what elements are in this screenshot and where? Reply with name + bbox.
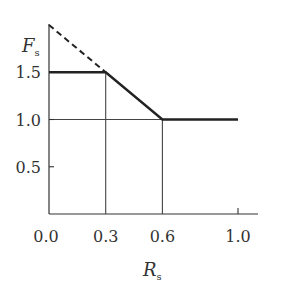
y-tick-label: 0.5 [16,158,41,177]
y-tick-label: 1.5 [16,63,41,82]
x-axis-title: Rs [142,259,162,282]
dashed-series-line [49,25,106,72]
plot-area: 0.51.01.50.00.30.61.0 [16,24,258,246]
x-tick-label: 1.0 [225,227,250,246]
x-tick-label: 0.6 [150,227,175,246]
solid-series-line [49,72,238,119]
x-tick-label: 0.3 [93,227,118,246]
chart: 0.51.01.50.00.30.61.0 Fs Rs [0,0,286,294]
x-tick-label: 0.0 [33,227,58,246]
y-tick-label: 1.0 [16,111,41,130]
y-axis-title: Fs [21,35,40,58]
